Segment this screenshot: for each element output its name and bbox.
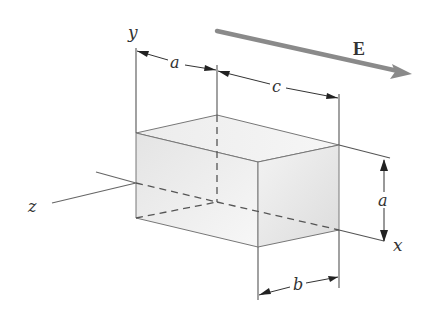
label-x-axis: x (393, 235, 403, 255)
label-a-right: a (378, 191, 388, 210)
dimension-a-right: a (378, 159, 388, 242)
z-axis (52, 172, 136, 203)
box (136, 115, 339, 247)
label-z-axis: z (27, 197, 37, 216)
ext-line-a-right-top (339, 145, 390, 158)
electric-field-arrow: E (217, 31, 412, 79)
box-electric-field-diagram: a c a b E y x z (0, 0, 425, 312)
x-axis (339, 230, 384, 241)
dimension-c: c (218, 71, 338, 99)
label-b: b (293, 275, 303, 294)
box-right-face (258, 145, 339, 247)
dimension-a-top: a (137, 51, 216, 72)
label-E: E (353, 39, 365, 59)
label-c: c (272, 77, 281, 96)
label-a-top: a (170, 53, 180, 72)
dimension-b: b (259, 275, 338, 295)
label-y-axis: y (127, 22, 138, 42)
